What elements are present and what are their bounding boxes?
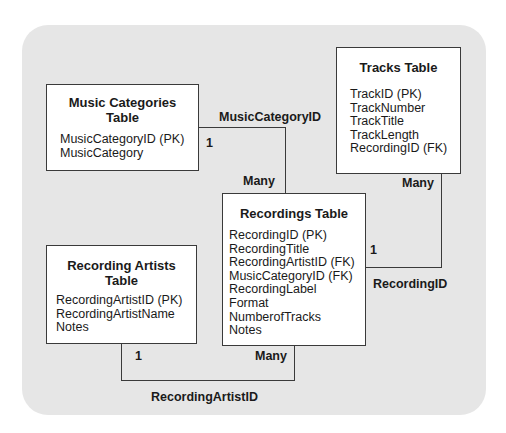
table-title: Recording Artists Table <box>47 258 196 288</box>
field: MusicCategoryID (PK) <box>60 133 198 147</box>
field-list: RecordingID (PK) RecordingTitle Recordin… <box>229 229 365 338</box>
field: TrackID (PK) <box>350 88 460 102</box>
tracks-table: Tracks Table TrackID (PK) TrackNumber Tr… <box>336 47 461 174</box>
field: TrackTitle <box>350 115 460 129</box>
relationship-key-label: RecordingID <box>373 277 447 291</box>
field: RecordingTitle <box>229 243 365 257</box>
field: Format <box>229 297 365 311</box>
connector-recordingid-vertical <box>441 173 442 268</box>
field: MusicCategoryID (FK) <box>229 270 365 284</box>
field: TrackNumber <box>350 102 460 116</box>
field: NumberofTracks <box>229 311 365 325</box>
field: RecordingArtistID (PK) <box>56 294 196 308</box>
field-list: MusicCategoryID (PK) MusicCategory <box>60 133 198 160</box>
field: RecordingArtistID (FK) <box>229 256 365 270</box>
field: Notes <box>229 324 365 338</box>
field: RecordingID (FK) <box>350 142 460 156</box>
field: MusicCategory <box>60 147 198 161</box>
music-categories-table: Music Categories Table MusicCategoryID (… <box>46 84 199 171</box>
field: RecordingID (PK) <box>229 229 365 243</box>
connector-recordingartistid-right-vertical <box>294 345 295 381</box>
connector-musiccategoryid-vertical <box>285 127 286 193</box>
field-list: RecordingArtistID (PK) RecordingArtistNa… <box>56 294 196 335</box>
cardinality-many-label: Many <box>243 174 275 188</box>
field: RecordingLabel <box>229 283 365 297</box>
field-list: TrackID (PK) TrackNumber TrackTitle Trac… <box>350 88 460 156</box>
connector-recordingartistid-horizontal <box>121 380 295 381</box>
table-title: Tracks Table <box>337 60 460 75</box>
connector-recordingartistid-left-vertical <box>121 343 122 381</box>
relationship-key-label: RecordingArtistID <box>151 390 258 404</box>
connector-recordingid-horizontal <box>365 267 442 268</box>
cardinality-one-label: 1 <box>370 243 377 257</box>
cardinality-one-label: 1 <box>206 136 213 150</box>
cardinality-one-label: 1 <box>135 349 142 363</box>
field: Notes <box>56 321 196 335</box>
cardinality-many-label: Many <box>402 176 434 190</box>
recording-artists-table: Recording Artists Table RecordingArtistI… <box>46 245 197 344</box>
cardinality-many-label: Many <box>255 349 287 363</box>
relationship-key-label: MusicCategoryID <box>219 110 321 124</box>
field: RecordingArtistName <box>56 308 196 322</box>
field: TrackLength <box>350 129 460 143</box>
connector-musiccategoryid-horizontal <box>198 127 286 128</box>
table-title: Recordings Table <box>223 206 365 221</box>
table-title: Music Categories Table <box>47 95 198 125</box>
recordings-table: Recordings Table RecordingID (PK) Record… <box>222 193 366 346</box>
